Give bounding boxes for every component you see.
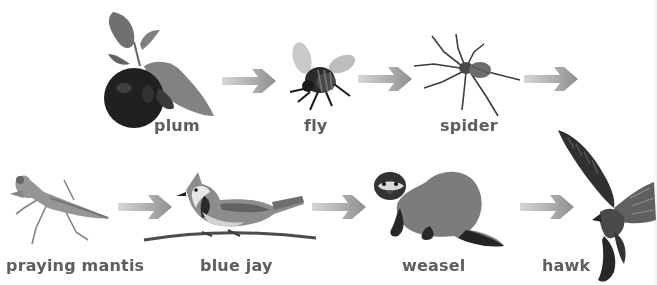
fly-icon bbox=[278, 40, 358, 115]
node-label-praying-mantis: praying mantis bbox=[6, 256, 144, 275]
node-label-spider: spider bbox=[440, 116, 498, 135]
weasel-icon bbox=[370, 164, 506, 250]
node-label-fly: fly bbox=[304, 116, 327, 135]
arrow-icon bbox=[312, 194, 368, 220]
node-label-hawk: hawk bbox=[542, 256, 590, 275]
arrow-icon bbox=[524, 66, 580, 92]
plum-icon bbox=[88, 8, 218, 126]
praying-mantis-icon bbox=[4, 168, 116, 250]
arrow-icon bbox=[222, 68, 278, 94]
blue-jay-icon bbox=[142, 170, 318, 246]
arrow-icon bbox=[358, 66, 414, 92]
node-label-blue-jay: blue jay bbox=[200, 256, 273, 275]
spider-icon bbox=[412, 30, 524, 120]
node-label-weasel: weasel bbox=[402, 256, 466, 275]
node-label-plum: plum bbox=[154, 116, 200, 135]
